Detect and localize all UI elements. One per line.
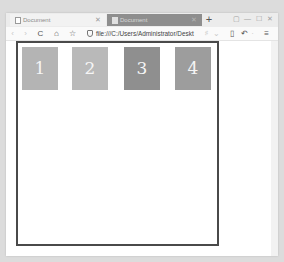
url-dropdown-icon[interactable]: ⌄ [212, 27, 221, 40]
home-icon[interactable]: ⌂ [52, 27, 61, 40]
close-window-icon[interactable]: ✕ [267, 14, 273, 24]
security-shield-icon [87, 30, 93, 37]
tab-label: Document [120, 17, 147, 23]
new-tab-button[interactable]: + [204, 13, 214, 26]
minimize-icon[interactable]: — [244, 14, 251, 24]
right-edge [271, 41, 278, 256]
pin-window-icon[interactable]: ▢ [233, 14, 240, 24]
address-bar: ‹ › C ⌂ ☆ file:///C:/Users/Administrator… [6, 27, 278, 41]
page-icon [15, 17, 21, 24]
tab-document-1[interactable]: Document ✕ [10, 14, 106, 26]
browser-window: Document ✕ Document ✕ + ▢ — ☐ ✕ ‹ › C ⌂ … [6, 13, 278, 256]
bookmark-lightning-icon[interactable]: ♯ [202, 27, 211, 40]
cropped-top-text [0, 0, 284, 10]
url-text: file:///C:/Users/Administrator/Deskt [96, 30, 194, 37]
tab-bar: Document ✕ Document ✕ + ▢ — ☐ ✕ [6, 13, 278, 27]
page-icon [112, 17, 118, 24]
box-2: 2 [72, 47, 108, 90]
tab-document-2[interactable]: Document ✕ [107, 14, 202, 26]
bordered-container: 1 2 3 4 [16, 41, 219, 246]
page-content: 1 2 3 4 [6, 41, 271, 256]
star-icon[interactable]: ☆ [68, 27, 77, 40]
close-tab-icon[interactable]: ✕ [95, 14, 101, 26]
tab-label: Document [23, 17, 50, 23]
url-field[interactable]: file:///C:/Users/Administrator/Deskt [87, 27, 194, 40]
box-1: 1 [22, 47, 58, 90]
maximize-icon[interactable]: ☐ [256, 14, 262, 24]
forward-icon[interactable]: › [21, 27, 30, 40]
menu-icon[interactable]: ≡ [262, 27, 271, 40]
back-icon[interactable]: ‹ [8, 27, 17, 40]
close-tab-icon[interactable]: ✕ [191, 14, 197, 26]
undo-dropdown-icon[interactable]: · [248, 27, 257, 40]
box-3: 3 [124, 47, 160, 90]
box-4: 4 [175, 47, 211, 90]
reload-icon[interactable]: C [36, 27, 45, 40]
reader-mode-icon[interactable]: ▯ [227, 27, 236, 40]
